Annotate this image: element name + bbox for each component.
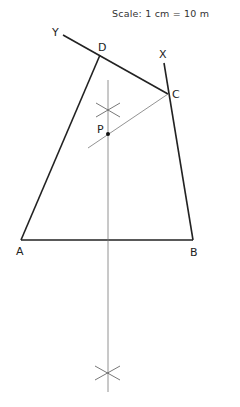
point-p-dot <box>106 132 110 136</box>
label-c: C <box>172 88 180 101</box>
side-dc-ray-y <box>63 35 168 94</box>
label-p: P <box>97 123 104 136</box>
construction-line-cp <box>88 94 168 148</box>
label-a: A <box>16 245 24 258</box>
geometry-diagram: A B C D P Y X <box>0 0 240 407</box>
arc-mark-bottom <box>95 366 120 380</box>
label-b: B <box>190 246 198 259</box>
label-d: D <box>98 41 106 54</box>
label-ray-x: X <box>159 48 167 61</box>
label-ray-y: Y <box>51 26 59 39</box>
